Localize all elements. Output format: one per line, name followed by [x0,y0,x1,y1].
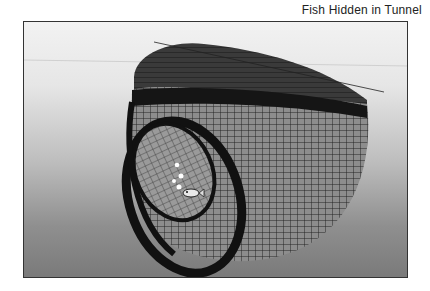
render-viewport [23,21,408,278]
tunnel-wireframe-image [24,22,408,278]
figure-caption: Fish Hidden in Tunnel [302,3,422,17]
